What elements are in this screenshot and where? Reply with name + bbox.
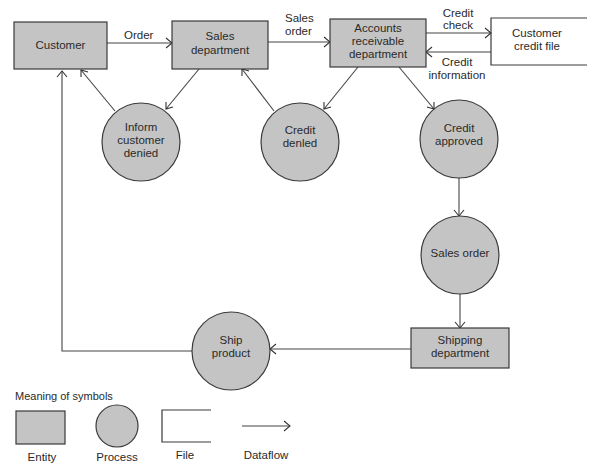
process-inform-customer-denied-label-1: Inform bbox=[125, 121, 158, 133]
flow-label-order: Order bbox=[124, 29, 154, 41]
process-ship-product-label-2: product bbox=[212, 347, 251, 359]
process-sales-order[interactable]: Sales order bbox=[421, 216, 499, 294]
flow-label-credit-check-2: check bbox=[443, 19, 473, 31]
data-flow-diagram: Customer Sales department Accounts recei… bbox=[0, 0, 596, 472]
flow-shipping-to-ship-product bbox=[270, 344, 411, 354]
process-ship-product[interactable]: Ship product bbox=[192, 312, 270, 390]
flow-sales-order-to-shipping bbox=[455, 294, 465, 328]
entity-accounts-receivable-label-3: department bbox=[349, 48, 408, 60]
file-customer-credit-file[interactable]: Customer credit file bbox=[491, 18, 587, 65]
flow-ar-to-credit-denied bbox=[324, 67, 358, 109]
entity-shipping-department-label-1: Shipping bbox=[438, 334, 483, 346]
legend-title: Meaning of symbols bbox=[15, 390, 113, 402]
legend-file-label: File bbox=[176, 449, 195, 461]
process-credit-approved-label-1: Credit bbox=[444, 122, 475, 134]
process-credit-approved[interactable]: Credit approved bbox=[420, 100, 498, 178]
entity-accounts-receivable[interactable]: Accounts receivable department bbox=[330, 19, 426, 67]
entity-sales-department-label-2: department bbox=[191, 44, 250, 56]
file-customer-credit-file-label-2: credit file bbox=[514, 40, 560, 52]
legend-dataflow-symbol bbox=[242, 421, 290, 431]
legend-file-symbol bbox=[162, 410, 211, 442]
flow-label-credit-information-2: information bbox=[429, 69, 486, 81]
flow-label-sales-order-1: Sales bbox=[285, 12, 314, 24]
flow-credit-denied-to-sales bbox=[242, 69, 274, 111]
flow-label-credit-check-1: Credit bbox=[443, 7, 474, 19]
flow-label-credit-information-1: Credit bbox=[442, 56, 473, 68]
legend: Meaning of symbols Entity Process File D… bbox=[15, 390, 290, 463]
legend-process-label: Process bbox=[96, 451, 138, 463]
flow-sales-order bbox=[268, 37, 330, 47]
entity-sales-department-label-1: Sales bbox=[206, 30, 235, 42]
legend-process-symbol bbox=[96, 405, 138, 447]
entity-customer-label: Customer bbox=[36, 39, 86, 51]
entity-accounts-receivable-label-1: Accounts bbox=[354, 22, 402, 34]
process-inform-customer-denied[interactable]: Inform customer denied bbox=[102, 103, 180, 181]
entity-shipping-department[interactable]: Shipping department bbox=[411, 328, 509, 368]
process-credit-approved-label-2: approved bbox=[435, 135, 483, 147]
process-inform-customer-denied-label-2: customer bbox=[117, 134, 164, 146]
flow-inform-to-customer bbox=[81, 70, 115, 111]
legend-dataflow-label: Dataflow bbox=[244, 449, 289, 461]
process-ship-product-label-1: Ship bbox=[219, 334, 242, 346]
entity-accounts-receivable-label-2: receivable bbox=[352, 35, 404, 47]
process-inform-customer-denied-label-3: denied bbox=[124, 147, 159, 159]
flow-approved-to-sales-order bbox=[454, 178, 464, 216]
flow-sales-to-inform bbox=[166, 69, 199, 109]
legend-entity-label: Entity bbox=[28, 451, 57, 463]
process-credit-denied[interactable]: Credit denled bbox=[261, 103, 339, 181]
flow-label-sales-order-2: order bbox=[285, 25, 312, 37]
file-customer-credit-file-label-1: Customer bbox=[512, 27, 562, 39]
entity-customer[interactable]: Customer bbox=[14, 22, 107, 69]
entity-shipping-department-label-2: department bbox=[431, 347, 490, 359]
entity-sales-department[interactable]: Sales department bbox=[172, 21, 268, 69]
legend-entity-symbol bbox=[16, 411, 65, 444]
process-sales-order-label: Sales order bbox=[431, 247, 490, 259]
process-credit-denied-label-1: Credit bbox=[285, 124, 316, 136]
process-credit-denied-label-2: denled bbox=[283, 137, 318, 149]
